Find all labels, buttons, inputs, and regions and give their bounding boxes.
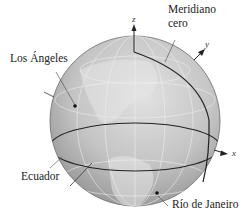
x-axis-arrow-icon: [220, 151, 228, 157]
label-rio: Río de Janeiro: [172, 199, 238, 211]
globe-diagram: [0, 0, 246, 224]
label-prime-meridian-1: Meridiano: [168, 4, 216, 16]
axis-label-y: y: [205, 40, 209, 49]
label-los-angeles: Los Ángeles: [10, 53, 68, 65]
los-angeles-marker: [73, 104, 77, 108]
axis-label-z: z: [132, 15, 136, 24]
rio-marker: [155, 191, 159, 195]
leader-equator: [50, 157, 62, 168]
tick-mark: [44, 92, 54, 97]
label-equator: Ecuador: [21, 171, 59, 183]
label-prime-meridian-2: cero: [168, 18, 188, 30]
axis-label-x: x: [232, 149, 236, 158]
z-axis-arrow-icon: [132, 24, 137, 31]
